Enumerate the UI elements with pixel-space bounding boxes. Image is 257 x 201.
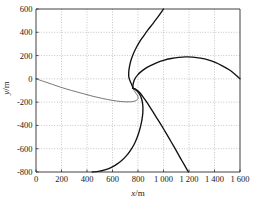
figure-container: 02004006008001 0001 2001 4001 600 -800-6…: [0, 0, 257, 201]
x-tick-label: 600: [106, 174, 119, 184]
x-axis-title: x/m: [130, 188, 145, 198]
chart-background: [0, 0, 257, 201]
x-tick-label: 400: [81, 174, 94, 184]
x-tick-label: 1 600: [230, 174, 249, 184]
y-tick-label: 600: [20, 4, 33, 14]
x-tick-labels: 02004006008001 0001 2001 4001 600: [34, 174, 250, 184]
x-tick-label: 1 200: [179, 174, 198, 184]
y-tick-label: -200: [17, 97, 33, 107]
y-tick-label: -600: [17, 144, 33, 154]
y-tick-label: 0: [28, 74, 32, 84]
y-axis-title: y/m: [1, 81, 11, 96]
y-tick-label: 200: [20, 51, 33, 61]
x-tick-label: 1 000: [154, 174, 173, 184]
y-tick-label: -800: [17, 167, 33, 177]
y-tick-label: -400: [17, 120, 33, 130]
y-tick-label: 400: [20, 27, 33, 37]
trajectory-chart: 02004006008001 0001 2001 4001 600 -800-6…: [0, 0, 257, 201]
x-tick-label: 1 400: [205, 174, 224, 184]
x-tick-label: 200: [55, 174, 68, 184]
x-tick-label: 800: [132, 174, 145, 184]
x-tick-label: 0: [34, 174, 38, 184]
